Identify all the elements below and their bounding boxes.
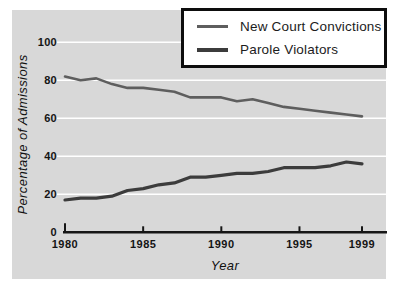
x-tick-label-1995: 1995: [277, 237, 321, 251]
series-line-0: [65, 77, 362, 117]
new-court-convictions-line-swatch: [197, 25, 228, 28]
legend-row-parole-violators: Parole Violators: [197, 42, 384, 57]
legend-box: New Court Convictions Parole Violators: [181, 8, 387, 68]
y-tick-label-100: 100: [18, 35, 57, 49]
x-tick-label-1985: 1985: [121, 237, 165, 251]
x-tick-label-1990: 1990: [199, 237, 243, 251]
legend-label-new-court-convictions: New Court Convictions: [240, 19, 382, 34]
y-tick-label-80: 80: [18, 73, 57, 87]
y-tick-label-20: 20: [18, 187, 57, 201]
y-tick-label-40: 40: [18, 149, 57, 163]
legend-row-new-court-convictions: New Court Convictions: [197, 19, 384, 34]
x-tick-label-1999: 1999: [340, 237, 384, 251]
x-axis-title: Year: [63, 258, 387, 273]
x-tick-label-1980: 1980: [43, 237, 87, 251]
y-tick-label-60: 60: [18, 111, 57, 125]
legend-label-parole-violators: Parole Violators: [240, 42, 338, 57]
parole-violators-line-swatch: [197, 48, 228, 52]
